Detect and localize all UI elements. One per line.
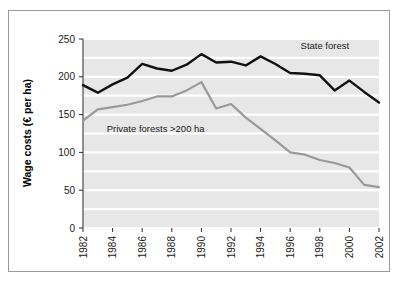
x-axis-tick-label: 1990	[196, 236, 207, 259]
chart-figure: 050100150200250 198219841986198819901992…	[0, 0, 402, 285]
x-axis-tick-label: 1986	[137, 236, 148, 259]
y-axis-tick-label: 250	[58, 34, 75, 45]
y-axis-title: Wage costs (€ per ha)	[21, 79, 33, 187]
x-axis-tick-label: 2002	[374, 236, 385, 259]
line-chart: 050100150200250 198219841986198819901992…	[9, 11, 389, 271]
figure-border-frame: 050100150200250 198219841986198819901992…	[8, 10, 390, 272]
x-axis-tick-label: 1998	[314, 236, 325, 259]
x-axis-tick-label: 1982	[78, 236, 89, 259]
x-axis-tick-label: 1988	[166, 236, 177, 259]
private-forest-label: Private forests >200 ha	[107, 123, 206, 134]
y-axis-tick-label: 200	[58, 71, 75, 82]
x-axis-ticks-group: 1982198419861988199019921994199619982000…	[78, 228, 385, 258]
y-axis-ticks-group: 050100150200250	[58, 34, 83, 234]
x-axis-tick-label: 1996	[285, 236, 296, 259]
y-axis-tick-label: 0	[69, 223, 75, 234]
x-axis-tick-label: 1992	[226, 236, 237, 259]
x-axis-tick-label: 1994	[255, 236, 266, 259]
y-axis-tick-label: 50	[64, 185, 76, 196]
y-axis-tick-label: 150	[58, 109, 75, 120]
x-axis-tick-label: 1984	[107, 236, 118, 259]
state-forest-label: State forest	[301, 40, 350, 51]
x-axis-tick-label: 2000	[344, 236, 355, 259]
y-axis-title-group: Wage costs (€ per ha)	[21, 79, 33, 187]
y-axis-tick-label: 100	[58, 147, 75, 158]
